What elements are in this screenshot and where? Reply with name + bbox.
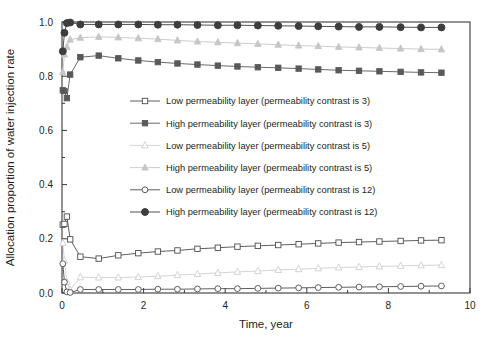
data-point-filled-square xyxy=(377,69,382,74)
data-point-open-circle xyxy=(77,287,83,293)
data-point-open-circle xyxy=(142,187,148,193)
data-point-open-circle xyxy=(96,287,102,293)
data-point-filled-circle xyxy=(397,24,404,31)
data-point-open-square xyxy=(235,244,240,249)
data-point-open-circle xyxy=(195,286,201,292)
data-point-filled-circle xyxy=(67,19,74,26)
data-point-filled-square xyxy=(64,95,69,100)
data-point-open-circle xyxy=(215,286,221,292)
data-point-filled-circle xyxy=(214,22,221,29)
data-point-open-circle xyxy=(62,279,68,285)
data-point-open-square xyxy=(142,98,147,103)
data-point-filled-circle xyxy=(356,23,363,30)
y-tick-label: 0.6 xyxy=(39,125,53,136)
data-point-filled-circle xyxy=(295,23,302,30)
data-point-open-square xyxy=(215,245,220,250)
data-point-open-square xyxy=(96,256,101,261)
y-axis-label: Allocation proportion of water injection… xyxy=(4,49,16,266)
legend-item-1[interactable]: High permeability layer (permeability co… xyxy=(130,119,372,129)
data-point-filled-square xyxy=(62,88,67,93)
x-tick-label: 2 xyxy=(141,300,147,311)
data-point-filled-square xyxy=(142,121,147,126)
data-point-open-square xyxy=(398,238,403,243)
legend-item-0[interactable]: Low permeability layer (permeability con… xyxy=(130,96,370,106)
x-tick-label: 0 xyxy=(59,300,65,311)
data-point-filled-circle xyxy=(376,23,383,30)
x-tick-label: 4 xyxy=(222,300,228,311)
data-point-filled-square xyxy=(78,55,83,60)
data-point-filled-square xyxy=(418,70,423,75)
data-point-open-square xyxy=(418,238,423,243)
data-point-filled-square xyxy=(336,68,341,73)
chart-container: 0246810 0.00.20.40.60.81.0 Time, year Al… xyxy=(0,0,497,337)
data-point-filled-circle xyxy=(115,21,122,28)
data-point-filled-square xyxy=(296,66,301,71)
data-point-open-circle xyxy=(235,286,241,292)
data-point-filled-circle xyxy=(174,21,181,28)
data-point-filled-circle xyxy=(335,23,342,30)
y-tick-label: 1.0 xyxy=(39,17,53,28)
data-point-filled-circle xyxy=(194,21,201,28)
data-point-filled-square xyxy=(215,63,220,68)
legend-item-4[interactable]: Low permeability layer (permeability con… xyxy=(130,185,375,195)
data-point-filled-square xyxy=(276,65,281,70)
data-point-filled-circle xyxy=(135,21,142,28)
legend-item-5[interactable]: High permeability layer (permeability co… xyxy=(130,207,377,217)
legend-item-label: High permeability layer (permeability co… xyxy=(166,163,372,173)
data-point-open-circle xyxy=(296,285,302,291)
data-point-filled-square xyxy=(96,53,101,58)
data-point-open-circle xyxy=(255,285,261,291)
data-point-filled-circle xyxy=(438,24,445,31)
data-point-filled-circle xyxy=(95,21,102,28)
data-point-filled-square xyxy=(175,61,180,66)
data-point-open-square xyxy=(67,237,72,242)
data-point-filled-square xyxy=(136,58,141,63)
data-point-filled-circle xyxy=(59,48,66,55)
data-point-filled-square xyxy=(439,70,444,75)
data-point-filled-circle xyxy=(154,21,161,28)
legend-item-label: Low permeability layer (permeability con… xyxy=(166,185,375,195)
data-point-open-square xyxy=(377,239,382,244)
y-tick-label: 0.4 xyxy=(39,179,53,190)
data-point-open-square xyxy=(255,243,260,248)
legend-item-label: Low permeability layer (permeability con… xyxy=(166,141,370,151)
data-point-filled-circle xyxy=(77,21,84,28)
data-point-open-circle xyxy=(315,285,321,291)
data-point-open-circle xyxy=(418,283,424,289)
data-point-open-square xyxy=(64,214,69,219)
data-point-filled-square xyxy=(67,72,72,77)
data-point-open-square xyxy=(316,241,321,246)
y-tick-label: 0.8 xyxy=(39,71,53,82)
data-point-open-square xyxy=(136,250,141,255)
legend-item-2[interactable]: Low permeability layer (permeability con… xyxy=(130,141,370,151)
y-tick-label: 0.0 xyxy=(39,288,53,299)
x-tick-label: 8 xyxy=(386,300,392,311)
data-point-open-square xyxy=(78,254,83,259)
data-point-open-circle xyxy=(175,286,181,292)
data-point-filled-circle xyxy=(61,29,68,36)
data-point-open-circle xyxy=(67,290,73,296)
x-axis-label: Time, year xyxy=(239,318,293,330)
data-point-open-circle xyxy=(356,284,362,290)
data-point-filled-circle xyxy=(234,22,241,29)
data-point-open-circle xyxy=(60,261,66,267)
legend-item-label: High permeability layer (permeability co… xyxy=(166,207,377,217)
data-point-open-square xyxy=(155,249,160,254)
allocation-proportion-line-chart: 0246810 0.00.20.40.60.81.0 Time, year Al… xyxy=(0,0,497,337)
data-point-open-circle xyxy=(398,284,404,290)
data-point-filled-square xyxy=(255,65,260,70)
data-point-filled-square xyxy=(155,59,160,64)
data-point-open-circle xyxy=(115,287,121,293)
data-point-filled-square xyxy=(235,64,240,69)
data-point-open-circle xyxy=(135,287,141,293)
data-point-open-square xyxy=(296,242,301,247)
data-point-open-square xyxy=(195,246,200,251)
data-point-filled-square xyxy=(398,69,403,74)
legend-item-3[interactable]: High permeability layer (permeability co… xyxy=(130,163,372,173)
data-point-open-square xyxy=(62,221,67,226)
data-point-open-circle xyxy=(155,286,161,292)
data-point-filled-circle xyxy=(142,209,149,216)
y-tick-label: 0.2 xyxy=(39,233,53,244)
data-point-filled-square xyxy=(316,67,321,72)
data-point-open-circle xyxy=(336,284,342,290)
